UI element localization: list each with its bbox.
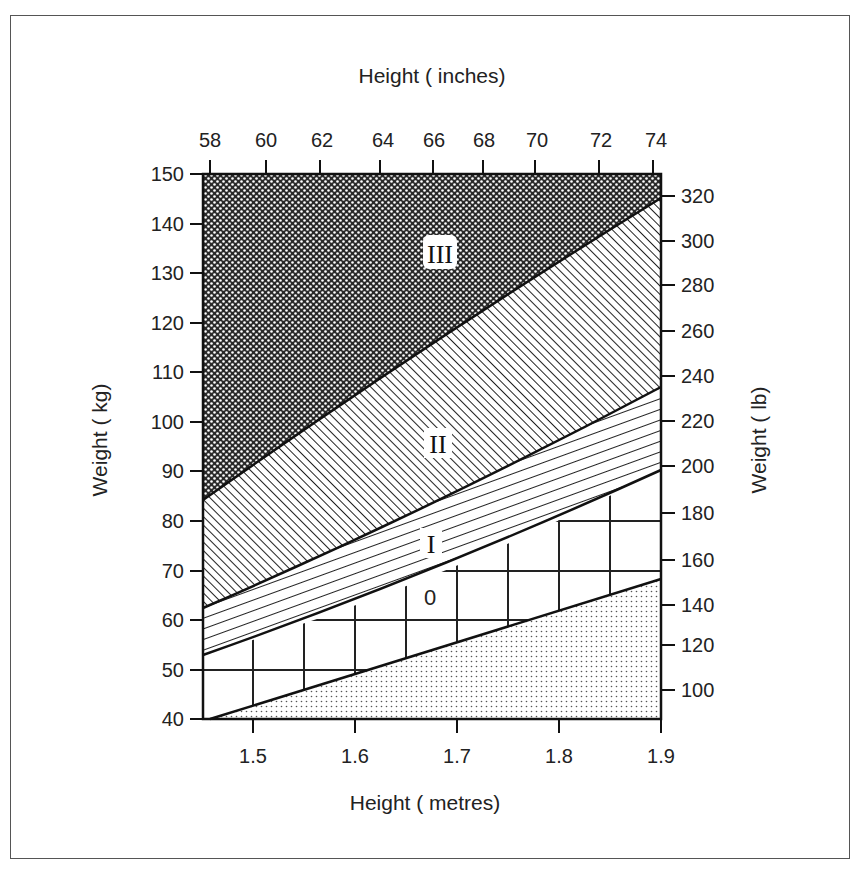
x-tick: 1.6 xyxy=(341,745,369,767)
x-tick: 1.8 xyxy=(545,745,573,767)
x2-tick: 58 xyxy=(199,129,221,151)
y-tick: 70 xyxy=(162,560,184,582)
right-axis-labels: 320 300 280 260 240 220 200 180 160 140 … xyxy=(681,185,714,701)
x2-tick: 62 xyxy=(311,129,333,151)
y-tick: 130 xyxy=(151,262,184,284)
y2-tick: 260 xyxy=(681,320,714,342)
y2-tick: 180 xyxy=(681,502,714,524)
left-axis-labels: 150 140 130 120 110 100 90 80 70 60 50 4… xyxy=(151,163,184,730)
y-tick: 60 xyxy=(162,609,184,631)
right-axis-title: Weight ( lb) xyxy=(747,387,770,494)
y-tick: 40 xyxy=(162,708,184,730)
y2-tick: 240 xyxy=(681,365,714,387)
x-tick: 1.5 xyxy=(239,745,267,767)
right-axis-ticks xyxy=(661,196,675,690)
region-III-label: III xyxy=(427,240,453,269)
top-axis-title: Height ( inches) xyxy=(358,64,505,87)
top-axis-ticks xyxy=(210,160,653,174)
x2-tick: 74 xyxy=(645,129,667,151)
y2-tick: 320 xyxy=(681,185,714,207)
y-tick: 150 xyxy=(151,163,184,185)
x2-tick: 64 xyxy=(372,129,394,151)
y-tick: 140 xyxy=(151,213,184,235)
x-tick: 1.7 xyxy=(443,745,471,767)
y2-tick: 280 xyxy=(681,274,714,296)
x2-tick: 68 xyxy=(473,129,495,151)
x-tick: 1.9 xyxy=(647,745,675,767)
y2-tick: 140 xyxy=(681,594,714,616)
left-axis-title: Weight ( kg) xyxy=(88,384,111,497)
y2-tick: 300 xyxy=(681,230,714,252)
bottom-axis-labels: 1.5 1.6 1.7 1.8 1.9 xyxy=(239,745,675,767)
x2-tick: 72 xyxy=(590,129,612,151)
y2-tick: 100 xyxy=(681,679,714,701)
y-tick: 90 xyxy=(162,460,184,482)
y2-tick: 220 xyxy=(681,410,714,432)
region-I-label: I xyxy=(427,530,436,559)
y-tick: 110 xyxy=(152,361,184,383)
y-tick: 80 xyxy=(162,510,184,532)
bottom-axis-ticks xyxy=(253,719,661,733)
x2-tick: 70 xyxy=(526,129,548,151)
y2-tick: 160 xyxy=(681,549,714,571)
top-axis-labels: 58 60 62 64 66 68 70 72 74 xyxy=(199,129,667,151)
region-II-label: II xyxy=(429,430,446,459)
left-axis-ticks xyxy=(190,174,203,719)
x2-tick: 66 xyxy=(423,129,445,151)
bottom-axis-title: Height ( metres) xyxy=(350,791,501,814)
bmi-chart: 150 140 130 120 110 100 90 80 70 60 50 4… xyxy=(0,0,862,874)
y2-tick: 200 xyxy=(681,455,714,477)
region-0-label: 0 xyxy=(424,585,436,610)
x2-tick: 60 xyxy=(255,129,277,151)
y-tick: 50 xyxy=(162,659,184,681)
y-tick: 120 xyxy=(151,312,184,334)
y2-tick: 120 xyxy=(681,634,714,656)
y-tick: 100 xyxy=(151,411,184,433)
